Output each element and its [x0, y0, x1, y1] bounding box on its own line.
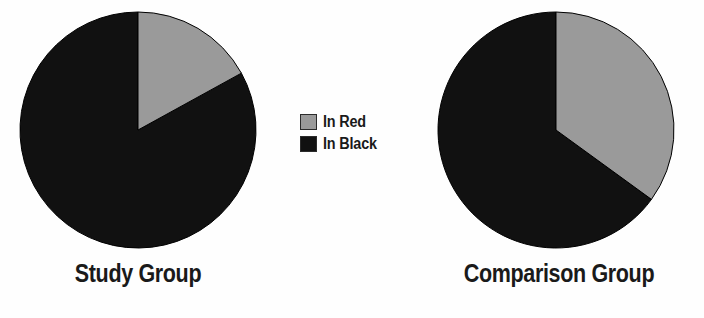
legend-label-in-black: In Black [323, 135, 377, 153]
legend-item-in-black[interactable]: In Black [300, 134, 408, 154]
panel-title-comparison-group: Comparison Group [434, 259, 683, 288]
chart-panel-comparison-group: Comparison Group [414, 0, 704, 318]
chart-panel-study-group: Study Group [0, 0, 290, 318]
pie-svg-study-group [18, 10, 258, 250]
chart-legend: In Red In Black [300, 112, 408, 156]
pie-chart-study-group [18, 10, 258, 250]
legend-label-in-red: In Red [323, 113, 366, 131]
legend-swatch-in-red [300, 114, 317, 130]
legend-item-in-red[interactable]: In Red [300, 112, 408, 132]
panel-title-study-group: Study Group [19, 259, 256, 288]
legend-swatch-in-black [300, 136, 317, 152]
pie-chart-figure: Study Group In Red In Black Comparison G… [0, 0, 704, 318]
pie-chart-comparison-group [436, 10, 676, 250]
pie-svg-comparison-group [436, 10, 676, 250]
